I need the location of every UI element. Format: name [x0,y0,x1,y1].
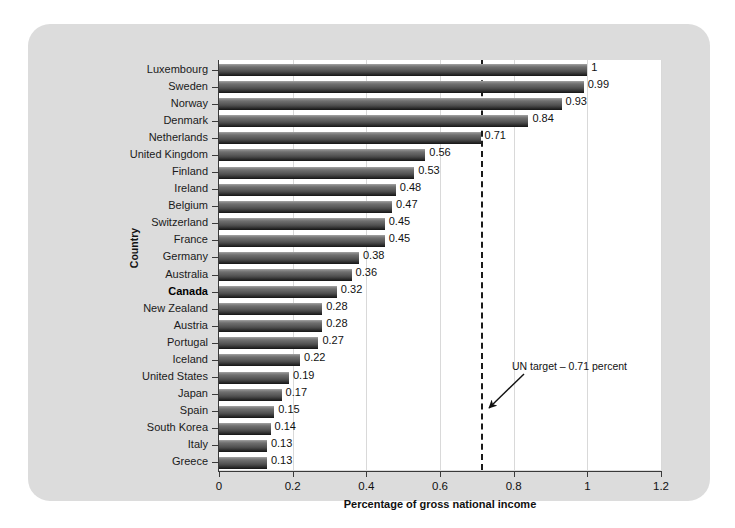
y-axis-tick [212,104,218,105]
y-axis-label-italy: Italy [36,438,208,450]
bar-finland[interactable] [219,167,414,179]
y-axis-label-south-korea: South Korea [36,421,208,433]
y-axis-tick [212,155,218,156]
x-axis-label-0.8: 0.8 [506,480,522,492]
bar-value-label: 0.71 [485,129,506,141]
y-axis-tick [212,292,218,293]
bar-australia[interactable] [219,269,352,281]
y-axis-label-australia: Australia [36,268,208,280]
bar-netherlands[interactable] [219,132,481,144]
annotation-arrow-icon [480,372,530,418]
y-axis-tick [212,172,218,173]
bar-portugal[interactable] [219,337,318,349]
y-axis-tick [212,206,218,207]
gridline-1.2 [661,60,662,470]
x-axis-label-0.6: 0.6 [432,480,448,492]
y-axis-tick [212,309,218,310]
plot-area: 10.990.930.840.710.560.530.480.470.450.4… [219,60,661,470]
bar-greece[interactable] [219,457,267,469]
bar-belgium[interactable] [219,201,392,213]
y-axis-label-canada: Canada [36,285,208,297]
x-axis-tick [514,471,515,477]
bar-value-label: 0.28 [326,317,347,329]
bar-value-label: 0.13 [271,437,292,449]
bar-value-label: 0.22 [304,351,325,363]
bar-value-label: 0.15 [278,403,299,415]
bar-iceland[interactable] [219,354,300,366]
bar-spain[interactable] [219,406,274,418]
y-axis-tick [212,343,218,344]
bar-denmark[interactable] [219,115,528,127]
x-axis-tick [293,471,294,477]
y-axis-label-austria: Austria [36,319,208,331]
y-axis-tick [212,275,218,276]
y-axis-label-united-kingdom: United Kingdom [36,148,208,160]
bar-value-label: 0.36 [356,266,377,278]
bar-value-label: 0.45 [389,232,410,244]
bar-value-label: 0.38 [363,249,384,261]
y-axis-line [218,60,219,471]
bar-austria[interactable] [219,320,322,332]
y-axis-label-luxembourg: Luxembourg [36,63,208,75]
x-axis-label-0: 0 [216,480,222,492]
y-axis-tick [212,445,218,446]
y-axis-tick [212,70,218,71]
bar-germany[interactable] [219,252,359,264]
bar-value-label: 0.19 [293,369,314,381]
bar-value-label: 0.17 [286,386,307,398]
bar-united-kingdom[interactable] [219,149,425,161]
y-axis-label-finland: Finland [36,165,208,177]
y-axis-label-france: France [36,233,208,245]
y-axis-label-portugal: Portugal [36,336,208,348]
bar-united-states[interactable] [219,372,289,384]
y-axis-label-iceland: Iceland [36,353,208,365]
y-axis-tick [212,121,218,122]
y-axis-tick [212,189,218,190]
y-axis-tick [212,462,218,463]
x-axis-label-0.2: 0.2 [285,480,301,492]
y-axis-label-belgium: Belgium [36,199,208,211]
bar-value-label: 0.28 [326,300,347,312]
y-axis-label-switzerland: Switzerland [36,216,208,228]
gridline-1 [587,60,588,470]
bar-value-label: 0.47 [396,198,417,210]
y-axis-label-sweden: Sweden [36,80,208,92]
y-axis-tick [212,138,218,139]
bar-value-label: 0.48 [400,181,421,193]
bar-south-korea[interactable] [219,423,271,435]
bar-value-label: 0.45 [389,215,410,227]
y-axis-label-norway: Norway [36,97,208,109]
y-axis-label-greece: Greece [36,455,208,467]
bar-luxembourg[interactable] [219,64,587,76]
bar-new-zealand[interactable] [219,303,322,315]
x-axis-tick [661,471,662,477]
bar-value-label: 0.32 [341,283,362,295]
x-axis-title: Percentage of gross national income [219,498,661,510]
y-axis-tick [212,428,218,429]
x-axis-tick [219,471,220,477]
figure-panel: 10.990.930.840.710.560.530.480.470.450.4… [28,24,710,501]
x-axis-label-1.2: 1.2 [653,480,669,492]
bar-value-label: 0.13 [271,454,292,466]
bar-value-label: 0.14 [275,420,296,432]
x-axis-tick [440,471,441,477]
y-axis-tick [212,360,218,361]
bar-value-label: 0.99 [588,78,609,90]
bar-switzerland[interactable] [219,218,385,230]
bar-canada[interactable] [219,286,337,298]
bar-italy[interactable] [219,440,267,452]
bar-norway[interactable] [219,98,562,110]
x-axis-label-1: 1 [584,480,590,492]
bar-ireland[interactable] [219,184,396,196]
bar-value-label: 0.93 [566,95,587,107]
bar-france[interactable] [219,235,385,247]
y-axis-tick [212,223,218,224]
bar-sweden[interactable] [219,81,584,93]
y-axis-label-netherlands: Netherlands [36,131,208,143]
y-axis-label-new-zealand: New Zealand [36,302,208,314]
y-axis-tick [212,411,218,412]
bar-japan[interactable] [219,389,282,401]
y-axis-label-japan: Japan [36,387,208,399]
x-axis-tick [366,471,367,477]
y-axis-tick [212,87,218,88]
